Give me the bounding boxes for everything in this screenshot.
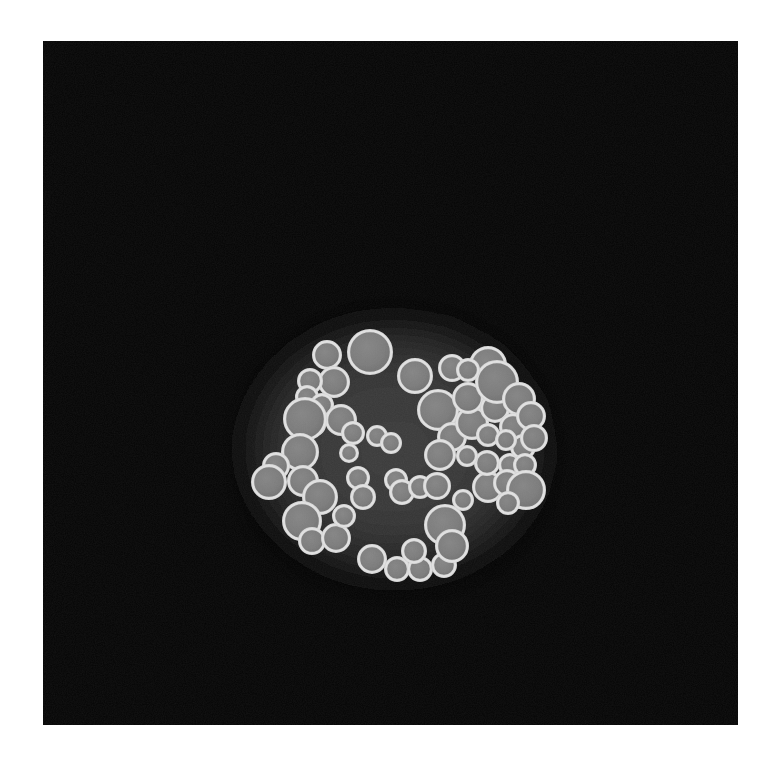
page-root xyxy=(0,0,779,760)
film-grain-overlay xyxy=(43,41,738,725)
scan-canvas xyxy=(43,41,738,725)
scan-image xyxy=(43,41,738,725)
